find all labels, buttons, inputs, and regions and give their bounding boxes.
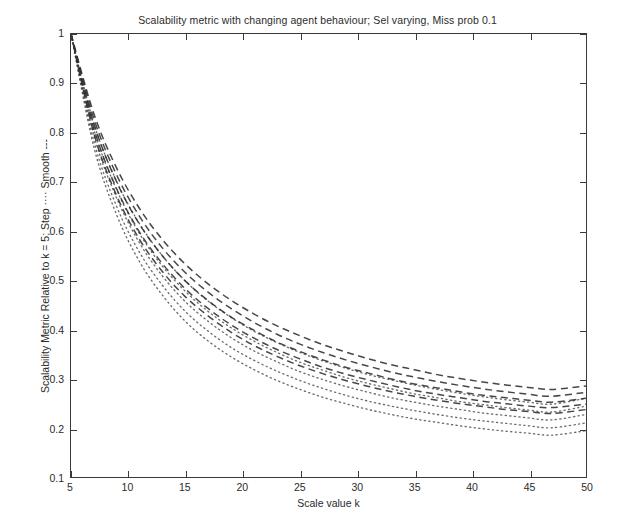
- y-tick-label: 0.4: [49, 324, 64, 336]
- curves-layer: [71, 34, 586, 477]
- y-tick-mark: [580, 281, 586, 282]
- x-tick-mark: [128, 34, 129, 40]
- x-tick-mark: [473, 471, 474, 477]
- series-line: [71, 34, 586, 420]
- x-axis-title: Scale value k: [70, 497, 587, 509]
- y-tick-label: 0.3: [49, 373, 64, 385]
- x-tick-mark: [186, 471, 187, 477]
- y-tick-mark: [71, 232, 77, 233]
- y-tick-mark: [580, 430, 586, 431]
- x-tick-label: 35: [409, 481, 421, 493]
- y-tick-label: 1: [58, 27, 64, 39]
- x-tick-label: 15: [179, 481, 191, 493]
- x-tick-mark: [531, 34, 532, 40]
- y-tick-mark: [580, 34, 586, 35]
- y-axis-title: Scalability Metric Relative to k = 5; St…: [39, 56, 51, 476]
- y-tick-label: 0.5: [49, 274, 64, 286]
- y-tick-mark: [580, 380, 586, 381]
- x-tick-label: 5: [67, 481, 73, 493]
- x-tick-mark: [301, 34, 302, 40]
- x-tick-mark: [531, 471, 532, 477]
- y-tick-mark: [71, 34, 77, 35]
- y-tick-mark: [580, 133, 586, 134]
- y-tick-mark: [580, 331, 586, 332]
- x-tick-label: 40: [466, 481, 478, 493]
- x-tick-label: 10: [122, 481, 134, 493]
- x-tick-mark: [128, 471, 129, 477]
- series-line: [71, 34, 586, 389]
- y-tick-mark: [580, 232, 586, 233]
- y-tick-label: 0.2: [49, 423, 64, 435]
- x-tick-mark: [416, 471, 417, 477]
- x-tick-label: 30: [351, 481, 363, 493]
- y-tick-mark: [580, 83, 586, 84]
- series-line: [71, 34, 586, 414]
- chart-title: Scalability metric with changing agent b…: [0, 14, 635, 26]
- series-line: [71, 34, 586, 404]
- x-tick-label: 50: [581, 481, 593, 493]
- y-tick-mark: [71, 380, 77, 381]
- y-tick-mark: [71, 182, 77, 183]
- x-tick-mark: [243, 471, 244, 477]
- series-line: [71, 34, 586, 408]
- y-tick-label: 0.1: [49, 472, 64, 484]
- series-line: [71, 34, 586, 412]
- figure-canvas: Scalability metric with changing agent b…: [0, 0, 635, 531]
- y-tick-mark: [580, 182, 586, 183]
- x-tick-mark: [358, 471, 359, 477]
- x-tick-mark: [473, 34, 474, 40]
- y-tick-label: 0.7: [49, 175, 64, 187]
- y-tick-mark: [71, 331, 77, 332]
- series-line: [71, 34, 586, 396]
- y-tick-label: 0.8: [49, 126, 64, 138]
- y-tick-mark: [71, 430, 77, 431]
- x-tick-mark: [416, 34, 417, 40]
- x-tick-label: 45: [524, 481, 536, 493]
- y-tick-mark: [71, 83, 77, 84]
- x-tick-label: 20: [236, 481, 248, 493]
- x-tick-mark: [71, 471, 72, 477]
- x-tick-mark: [301, 471, 302, 477]
- plot-area: [70, 33, 587, 478]
- y-tick-label: 0.6: [49, 225, 64, 237]
- y-tick-mark: [71, 281, 77, 282]
- x-tick-mark: [358, 34, 359, 40]
- x-tick-label: 25: [294, 481, 306, 493]
- x-tick-mark: [186, 34, 187, 40]
- y-tick-mark: [71, 133, 77, 134]
- series-line: [71, 34, 586, 435]
- x-tick-mark: [243, 34, 244, 40]
- y-tick-label: 0.9: [49, 76, 64, 88]
